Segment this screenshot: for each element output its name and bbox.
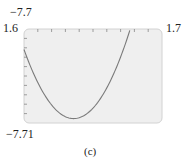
plot-area — [0, 0, 187, 165]
